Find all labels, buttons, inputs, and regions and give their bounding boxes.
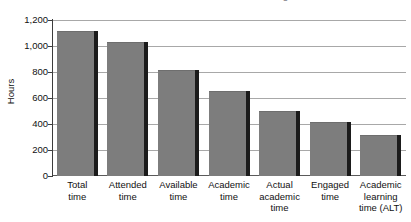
x-axis-tick-label: Attendedtime: [103, 179, 154, 202]
bar[interactable]: [259, 111, 296, 176]
bar-chart: Time Available for Academic Learning Hou…: [0, 0, 411, 222]
x-axis-label-line: Attended: [103, 179, 154, 191]
x-axis-label-line: Engaged: [305, 179, 356, 191]
x-axis-label-line: Total: [52, 179, 103, 191]
bar-body: [310, 122, 347, 176]
bar-edge-shadow: [195, 70, 199, 176]
bar-edge-shadow: [347, 122, 351, 176]
y-axis-tick-labels: 1,2001,0008006004002000: [0, 0, 48, 222]
bar-body: [209, 91, 246, 176]
x-axis-label-line: time: [52, 191, 103, 203]
bar[interactable]: [158, 70, 195, 176]
x-axis-tick-label: Engagedtime: [305, 179, 356, 202]
x-axis-label-line: time: [204, 191, 255, 203]
y-axis-tick: [48, 176, 52, 177]
bar-edge-shadow: [94, 31, 98, 176]
bar-body: [158, 70, 195, 176]
chart-title: Time Available for Academic Learning: [0, 0, 411, 1]
bar-body: [360, 135, 397, 176]
x-axis-label-line: time: [153, 191, 204, 203]
x-axis-tick-labels: TotaltimeAttendedtimeAvailabletimeAcadem…: [52, 179, 406, 222]
bar-edge-shadow: [144, 42, 148, 176]
bar-body: [107, 42, 144, 176]
y-axis-tick-label: 0: [4, 171, 48, 181]
y-axis-tick-label: 400: [4, 119, 48, 129]
x-axis-label-line: Actual: [254, 179, 305, 191]
bar[interactable]: [209, 91, 246, 176]
y-axis-tick-label: 800: [4, 67, 48, 77]
x-axis-tick-label: Availabletime: [153, 179, 204, 202]
x-axis-label-line: time (ALT): [355, 202, 406, 214]
x-axis-label-line: Available: [153, 179, 204, 191]
bar[interactable]: [57, 31, 94, 176]
y-axis-tick-label: 1,200: [4, 15, 48, 25]
bar[interactable]: [360, 135, 397, 176]
x-axis-label-line: time: [103, 191, 154, 203]
x-axis-label-line: academic: [254, 191, 305, 203]
x-axis-label-line: Academic: [204, 179, 255, 191]
bar-edge-shadow: [296, 111, 300, 176]
bar-edge-shadow: [246, 91, 250, 176]
bar-body: [259, 111, 296, 176]
x-axis-label-line: time: [254, 202, 305, 214]
x-axis-tick-label: Academictime: [204, 179, 255, 202]
bar-series: [52, 20, 406, 176]
x-axis-label-line: learning: [355, 191, 406, 203]
bar[interactable]: [107, 42, 144, 176]
x-axis-tick-label: Totaltime: [52, 179, 103, 202]
y-axis-tick-label: 1,000: [4, 41, 48, 51]
x-axis-tick-label: Academiclearningtime (ALT): [355, 179, 406, 214]
bar-body: [57, 31, 94, 176]
bar[interactable]: [310, 122, 347, 176]
x-axis-label-line: time: [305, 191, 356, 203]
x-axis-label-line: Academic: [355, 179, 406, 191]
y-axis-tick-label: 200: [4, 145, 48, 155]
y-axis-tick-label: 600: [4, 93, 48, 103]
bar-edge-shadow: [397, 135, 401, 176]
x-axis-tick-label: Actualacademictime: [254, 179, 305, 214]
